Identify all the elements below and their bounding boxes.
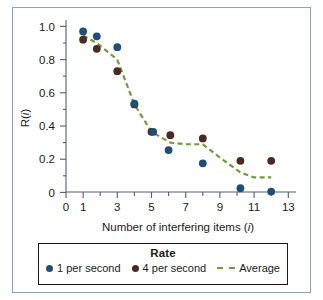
y-axis-title-close: ) [19,109,31,113]
series-average-line [83,36,271,178]
data-point-4-per-second [93,45,101,53]
data-point-1-per-second [93,32,101,40]
y-tick-label: 0.2 [39,153,55,165]
data-point-1-per-second [199,159,207,167]
data-point-4-per-second [237,157,245,165]
legend-item-4-per-second[interactable]: 4 per second [132,262,207,274]
data-point-1-per-second [131,100,139,108]
dashed-line-icon [217,267,235,269]
data-point-1-per-second [113,43,121,51]
y-axis-title: R(i) [19,109,31,128]
y-axis-ticks [60,26,66,192]
series-1-per-second-points [79,27,275,195]
filled-circle-icon [132,265,139,272]
x-tick-label: 9 [217,201,223,213]
data-point-1-per-second [237,184,245,192]
y-tick-label: 0 [49,187,55,199]
legend-item-label: Average [239,262,280,274]
y-axis-title-main: R( [19,115,31,127]
figure-container: 1.0 0.8 0.6 0.4 0.2 0 R(i) [0,0,323,300]
data-point-4-per-second [267,157,275,165]
x-tick-label: 5 [148,201,154,213]
legend-item-average[interactable]: Average [217,262,280,274]
svg-text:Number of interfering items (i: Number of interfering items (i) [102,221,254,233]
y-tick-label: 1.0 [39,21,55,33]
data-point-1-per-second [267,188,275,196]
data-point-4-per-second [113,67,121,75]
data-point-4-per-second [166,131,174,139]
x-tick-label: 0 [63,201,69,213]
x-tick-label: 1 [80,201,86,213]
y-tick-label: 0.6 [39,87,55,99]
x-axis-title-close: ) [250,221,254,233]
average-dashed-line [83,36,271,178]
svg-text:R(i): R(i) [19,109,31,128]
filled-circle-icon [46,265,53,272]
series-4-per-second-points [79,36,275,165]
y-tick-label: 0.4 [39,120,56,132]
x-axis-tick-labels: 0 1 3 5 7 9 11 13 [63,201,295,213]
x-axis-title: Number of interfering items (i) [102,221,254,233]
data-point-1-per-second [79,27,87,35]
legend-entries: 1 per second 4 per second Average [39,259,287,274]
y-axis-tick-labels: 1.0 0.8 0.6 0.4 0.2 0 [39,21,56,199]
legend-item-label: 1 per second [57,262,121,274]
legend-title: Rate [39,247,287,259]
x-tick-label: 7 [182,201,188,213]
legend-item-1-per-second[interactable]: 1 per second [46,262,121,274]
legend: Rate 1 per second 4 per second Average [38,243,288,285]
x-tick-label: 3 [114,201,120,213]
x-tick-label: 13 [282,201,295,213]
legend-item-label: 4 per second [143,262,207,274]
data-point-1-per-second [165,146,173,154]
data-point-1-per-second [149,128,157,136]
x-axis-title-main: Number of interfering items ( [102,221,248,233]
x-tick-label: 11 [248,201,260,213]
data-point-4-per-second [79,36,87,44]
data-point-4-per-second [199,135,207,143]
y-tick-label: 0.8 [39,54,55,66]
x-axis-ticks [66,192,288,198]
